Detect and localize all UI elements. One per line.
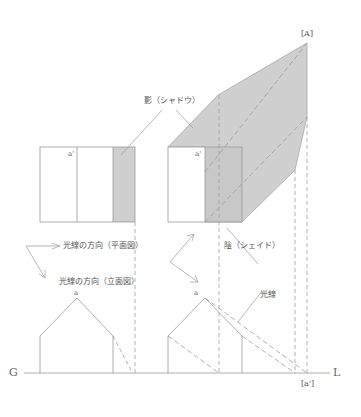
elevation-right [168, 298, 242, 373]
label-shade: 陰（シェイド） [224, 242, 280, 250]
diagram-canvas [0, 0, 361, 417]
label-a-prime-ground: [a'] [301, 380, 314, 388]
label-light-direction-plan: 光線の方向（平面図） [63, 242, 143, 250]
label-a-prime-plan-right: a' [195, 151, 201, 158]
plan-left-shade [113, 147, 135, 222]
label-ground-G: G [9, 367, 18, 378]
shadow-projection-diagram: [A] 影（シャドウ） a' a' 光線の方向（平面図） 陰（シェイド） 光線の… [0, 0, 361, 417]
plan-left [40, 147, 135, 222]
elevation-left [40, 298, 113, 373]
label-a-elevation-right: a [194, 290, 198, 297]
label-ground-L: L [333, 367, 340, 378]
light-direction-arrows-right [170, 234, 198, 282]
label-point-A: [A] [301, 30, 313, 38]
plan-right-shade [205, 147, 242, 222]
light-direction-arrows-left [26, 243, 60, 278]
label-a-prime-plan-left: a' [68, 151, 74, 158]
elevation-left-shadow-line [113, 336, 131, 370]
label-light-direction-elevation: 光線の方向（立面図） [59, 278, 139, 286]
plan-right [168, 147, 242, 222]
label-light-ray: 光線 [260, 291, 276, 299]
label-a-elevation-left: a [74, 290, 78, 297]
elevation-right-light-rays [168, 298, 307, 373]
label-shadow: 影（シャドウ） [144, 97, 200, 105]
